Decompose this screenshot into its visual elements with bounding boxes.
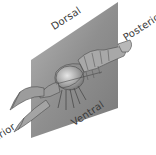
diagram-svg bbox=[0, 0, 156, 155]
crayfish-plane-diagram: Dorsal Posterior Ventral Anterior bbox=[0, 0, 156, 155]
